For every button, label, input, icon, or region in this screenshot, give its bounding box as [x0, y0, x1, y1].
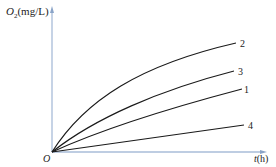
y-axis-label: O2(mg/L): [6, 5, 49, 20]
curve-4: [52, 125, 244, 152]
y-label-unit: (mg/L): [17, 5, 48, 17]
curve-label-4: 4: [248, 120, 253, 131]
curve-label-3: 3: [238, 66, 243, 77]
curve-label-1: 1: [244, 84, 249, 95]
curve-label-2: 2: [240, 38, 245, 49]
y-label-symbol: O: [6, 5, 14, 17]
chart-canvas: 2 3 1 4: [0, 0, 276, 167]
origin-label: O: [43, 153, 50, 164]
x-label-unit: (h): [257, 153, 269, 164]
x-axis-label: t(h): [254, 153, 268, 164]
curve-1: [52, 89, 242, 152]
y-axis-arrow-icon: [50, 6, 54, 13]
